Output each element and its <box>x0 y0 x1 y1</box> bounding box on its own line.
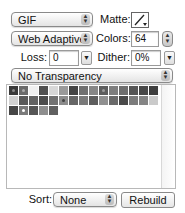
transparency-select-value: No Transparency <box>18 70 102 82</box>
color-swatch[interactable] <box>39 96 49 106</box>
updown-arrows-icon: ▲▼ <box>81 14 90 25</box>
matte-swatch[interactable] <box>131 12 149 28</box>
updown-arrows-icon: ▲▼ <box>105 194 114 205</box>
colors-label: Colors: <box>96 32 130 45</box>
triangle-down-icon: ▼ <box>166 54 173 61</box>
color-swatch[interactable] <box>29 96 39 106</box>
color-swatch[interactable] <box>99 86 109 96</box>
sort-select-value: None <box>60 194 86 206</box>
web-safe-dot-icon <box>62 99 65 102</box>
dither-menu-button[interactable]: ▼ <box>164 51 175 65</box>
matte-label: Matte: <box>100 13 130 26</box>
dither-label: Dither: <box>96 51 130 64</box>
updown-arrows-icon: ▲▼ <box>81 33 90 44</box>
reduction-select[interactable]: Web Adaptive ▲▼ <box>11 31 93 46</box>
web-safe-dot-icon <box>12 89 15 92</box>
transparency-select[interactable]: No Transparency ▲▼ <box>11 68 173 83</box>
color-swatch[interactable] <box>39 86 49 96</box>
color-swatch[interactable] <box>19 106 29 116</box>
web-safe-dot-icon <box>102 89 105 92</box>
color-swatch[interactable] <box>59 96 69 106</box>
color-swatch[interactable] <box>149 96 159 106</box>
color-swatch[interactable] <box>49 86 59 96</box>
color-swatch[interactable] <box>129 86 139 96</box>
color-swatch[interactable] <box>109 96 119 106</box>
color-swatch[interactable] <box>49 96 59 106</box>
loss-menu-button[interactable]: ▼ <box>81 51 92 65</box>
color-swatch[interactable] <box>79 96 89 106</box>
color-swatch[interactable] <box>89 96 99 106</box>
color-swatch[interactable] <box>9 96 19 106</box>
color-swatch[interactable] <box>129 96 139 106</box>
color-swatch[interactable] <box>19 86 29 96</box>
color-swatch[interactable] <box>49 106 59 116</box>
color-swatch[interactable] <box>149 86 159 96</box>
color-table[interactable] <box>6 84 176 189</box>
dither-field[interactable]: 0% <box>131 50 161 66</box>
color-table-scrollbar[interactable] <box>161 85 175 188</box>
color-swatch[interactable] <box>29 106 39 116</box>
color-swatch[interactable] <box>99 96 109 106</box>
web-safe-dot-icon <box>22 109 25 112</box>
triangle-down-icon: ▼ <box>83 54 90 61</box>
rebuild-button[interactable]: Rebuild <box>121 192 175 208</box>
loss-label: Loss: <box>20 51 47 64</box>
web-safe-dot-icon <box>22 89 25 92</box>
color-swatch[interactable] <box>39 106 49 116</box>
color-swatch[interactable] <box>89 86 99 96</box>
color-swatch[interactable] <box>19 96 29 106</box>
color-swatch[interactable] <box>29 86 39 96</box>
color-swatch[interactable] <box>9 106 19 116</box>
color-swatch[interactable] <box>109 86 119 96</box>
color-swatch[interactable] <box>139 96 149 106</box>
color-swatch[interactable] <box>119 96 129 106</box>
color-swatch[interactable] <box>69 86 79 96</box>
sort-label: Sort: <box>28 193 52 206</box>
color-swatch[interactable] <box>69 96 79 106</box>
color-swatch[interactable] <box>119 86 129 96</box>
color-swatch[interactable] <box>139 86 149 96</box>
colors-field[interactable]: 64 <box>131 31 159 47</box>
eyedropper-icon <box>132 13 148 27</box>
loss-field[interactable]: 0 <box>49 50 79 66</box>
format-select[interactable]: GIF ▲▼ <box>11 12 93 27</box>
sort-select[interactable]: None ▲▼ <box>53 192 117 207</box>
reduction-select-value: Web Adaptive <box>18 33 86 45</box>
color-swatch[interactable] <box>79 86 89 96</box>
color-swatch[interactable] <box>9 86 19 96</box>
updown-arrows-icon: ▲▼ <box>161 70 170 81</box>
colors-stepper[interactable]: ▲▼ <box>162 31 173 47</box>
format-select-value: GIF <box>18 14 36 26</box>
color-swatch[interactable] <box>59 86 69 96</box>
